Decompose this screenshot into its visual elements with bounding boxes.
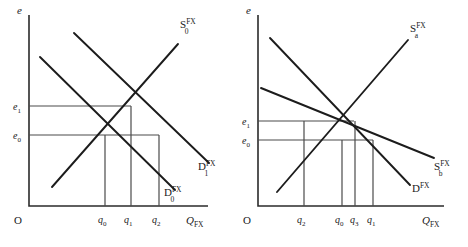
curve-label-demand-d: DFX [412,181,430,194]
x-tick-q1: q1 [124,214,133,228]
x-tick-q2: q2 [297,214,306,228]
x-tick-q0: q0 [98,214,107,228]
origin-label: O [14,214,22,226]
y-axis-label: e [17,4,22,16]
left-panel-svg: e O QFX e0 e1 q0 q1 [0,0,234,247]
origin-label: O [243,214,251,226]
chart-panel-left: e O QFX e0 e1 q0 q1 [0,0,234,247]
y-axis-label: e [246,4,251,16]
curve-demand-d1 [74,33,209,163]
axis-lines [258,15,444,206]
curve-demand-d0 [40,57,175,190]
curve-label-supply-sa: SFXa [410,21,426,40]
x-tick-q3: q3 [350,214,359,228]
curve-label-supply-sb: SFXb [434,159,450,178]
chart-panel-right: e O QFX e0 e1 q2 q0 [234,0,468,247]
curve-label-supply-s0: SFX0 [180,17,196,36]
y-tick-e1: e1 [13,101,21,115]
right-panel-svg: e O QFX e0 e1 q2 q0 [234,0,468,247]
y-tick-e1: e1 [242,116,250,130]
y-tick-e0: e0 [242,135,250,149]
y-tick-e0: e0 [13,130,21,144]
x-axis-label: QFX [422,214,440,229]
curve-label-demand-d0: DFX0 [164,185,182,204]
x-tick-q0: q0 [335,214,344,228]
x-tick-q2: q2 [152,214,161,228]
figure-container: e O QFX e0 e1 q0 q1 [0,0,468,247]
x-tick-q1: q1 [367,214,376,228]
curve-label-demand-d1: DFX1 [198,159,216,178]
x-axis-label: QFX [186,214,204,229]
curve-demand-d [270,38,410,185]
curve-supply-sb [261,88,434,158]
